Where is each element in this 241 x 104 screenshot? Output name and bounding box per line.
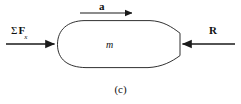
free-body-diagram-figure: a ΣFx R m (c) [0,0,241,104]
force-subscript: x [24,33,27,41]
figure-caption: (c) [0,84,241,95]
sigma-symbol: Σ [11,24,17,36]
applied-force-label: ΣFx [11,25,28,39]
acceleration-label: a [99,1,105,12]
resistance-label: R [209,25,217,36]
mass-body-outline [58,21,181,68]
mass-label: m [106,40,113,50]
